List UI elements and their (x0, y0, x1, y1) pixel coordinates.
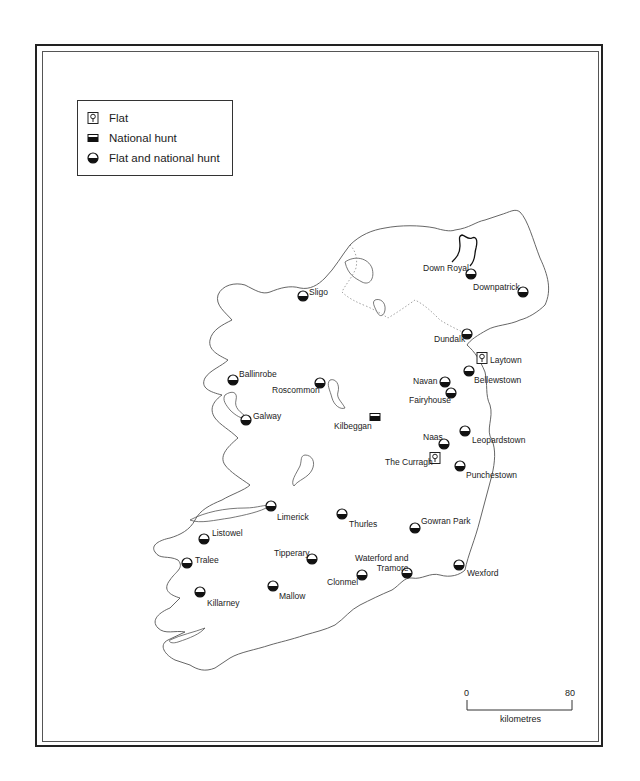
racecourse-label-navan: Navan (413, 376, 438, 386)
scale-end-label: 80 (565, 688, 575, 698)
lough-erne (374, 299, 386, 315)
racecourse-label-the-curragh: The Curragh (385, 457, 433, 467)
legend-label-flat: Flat (109, 112, 128, 124)
legend-label-national-hunt: National hunt (109, 132, 177, 144)
racecourse-label-killarney: Killarney (207, 598, 240, 608)
racecourse-label-punchestown: Punchestown (466, 470, 517, 480)
racecourse-label-wexford: Wexford (467, 568, 499, 578)
kenmare-inlet (169, 628, 205, 643)
lough-derg (293, 455, 314, 486)
legend-label-flat-and-national-hunt: Flat and national hunt (109, 152, 220, 164)
scale-start-label: 0 (464, 688, 469, 698)
flat-and-national-hunt-icon (454, 460, 466, 472)
flat-and-national-hunt-icon (459, 425, 471, 437)
lough-neagh (345, 258, 373, 283)
down-royal-line (452, 235, 477, 266)
flat-and-national-hunt-icon (181, 557, 193, 569)
racecourse-label-limerick: Limerick (277, 512, 309, 522)
legend-item-national-hunt: National hunt (87, 132, 177, 144)
flat-icon (476, 352, 488, 364)
racecourse-label-galway: Galway (253, 411, 281, 421)
racecourse-label-listowel: Listowel (212, 528, 243, 538)
racecourse-label-clonmel: Clonmel (327, 577, 358, 587)
flat-and-national-hunt-icon (297, 290, 309, 302)
flat-and-national-hunt-icon (265, 500, 277, 512)
flat-and-national-hunt-icon (409, 522, 421, 534)
racecourse-label-ballinrobe: Ballinrobe (239, 369, 277, 379)
lough-ree (328, 380, 345, 409)
racecourse-label-leopardstown: Leopardstown (472, 435, 525, 445)
scale-bar (467, 700, 572, 710)
racecourse-label-bellewstown: Bellewstown (474, 375, 521, 385)
flat-and-national-hunt-icon (198, 533, 210, 545)
flat-and-national-hunt-icon (336, 508, 348, 520)
legend-item-flat-and-national-hunt: Flat and national hunt (87, 152, 220, 164)
racecourse-label-kilbeggan: Kilbeggan (334, 421, 372, 431)
national-hunt-icon (87, 132, 99, 144)
racecourse-label-roscommon: Roscommon (272, 385, 320, 395)
racecourse-label-tralee: Tralee (195, 555, 219, 565)
racecourse-label-downpatrick: Downpatrick (473, 282, 520, 292)
flat-and-national-hunt-icon (453, 559, 465, 571)
racecourse-label-thurles: Thurles (349, 519, 377, 529)
flat-and-national-hunt-icon (194, 586, 206, 598)
flat-icon (87, 112, 99, 124)
racecourse-label-sligo: Sligo (309, 287, 328, 297)
racecourse-label-laytown: Laytown (490, 355, 522, 365)
legend: Flat National hunt Flat and national hun… (77, 100, 233, 176)
shannon-estuary (190, 505, 270, 521)
racecourse-label-down-royal: Down Royal (423, 263, 469, 273)
flat-and-national-hunt-icon (267, 580, 279, 592)
racecourse-label-tipperary: Tipperary (274, 548, 310, 558)
racecourse-label-gowran-park: Gowran Park (421, 516, 471, 526)
racecourse-label-fairyhouse: Fairyhouse (409, 395, 451, 405)
flat-and-national-hunt-icon (87, 152, 99, 164)
flat-and-national-hunt-icon (240, 414, 252, 426)
racecourse-label-mallow: Mallow (279, 591, 305, 601)
legend-item-flat: Flat (87, 112, 128, 124)
scale-unit-label: kilometres (500, 714, 541, 724)
racecourse-label-naas: Naas (423, 432, 443, 442)
flat-and-national-hunt-icon (227, 374, 239, 386)
racecourse-label-dundalk: Dundalk (434, 334, 465, 344)
